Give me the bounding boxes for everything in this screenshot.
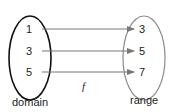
domain-label: domain	[12, 96, 48, 108]
domain-value-3: 5	[26, 66, 32, 78]
domain-value-1: 1	[26, 23, 32, 35]
range-value-2: 5	[139, 45, 145, 57]
range-value-1: 3	[139, 23, 145, 35]
range-label: range	[130, 94, 158, 106]
function-label: f	[82, 80, 87, 92]
function-mapping-diagram: 1 3 5 3 5 7 f domain range	[0, 0, 176, 112]
domain-value-2: 3	[26, 45, 32, 57]
range-value-3: 7	[139, 66, 145, 78]
